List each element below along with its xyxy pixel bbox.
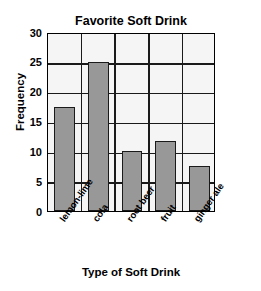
x-axis-title: Type of Soft Drink <box>47 266 215 278</box>
gridline-25 <box>48 63 214 65</box>
y-tick-10: 10 <box>2 147 42 158</box>
y-tick-25: 25 <box>2 57 42 68</box>
y-tick-0: 0 <box>2 207 42 218</box>
y-tick-15: 15 <box>2 117 42 128</box>
y-tick-20: 20 <box>2 87 42 98</box>
bar-cola <box>88 62 109 211</box>
bar-chart: Favorite Soft Drink Frequency 0510152025… <box>0 0 261 291</box>
y-tick-30: 30 <box>2 28 42 39</box>
y-tick-5: 5 <box>2 177 42 188</box>
category-separator-2 <box>114 34 116 211</box>
chart-title: Favorite Soft Drink <box>47 14 215 29</box>
gridline-20 <box>48 93 214 95</box>
plot-area <box>47 33 215 212</box>
bar-fruit <box>155 141 176 211</box>
category-separator-4 <box>182 34 184 211</box>
